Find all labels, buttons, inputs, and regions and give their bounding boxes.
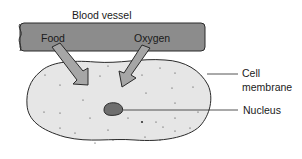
cell-diagram: Blood vessel Food Oxygen Cell membrane N…	[0, 0, 302, 159]
nucleus-label: Nucleus	[243, 104, 281, 116]
nucleus	[104, 103, 123, 116]
oxygen-label: Oxygen	[134, 32, 170, 44]
blood-vessel-label: Blood vessel	[72, 9, 132, 21]
food-label: Food	[41, 32, 65, 44]
cell-membrane-label-line2: membrane	[242, 81, 292, 93]
cell-membrane-label-line1: Cell	[242, 67, 260, 79]
